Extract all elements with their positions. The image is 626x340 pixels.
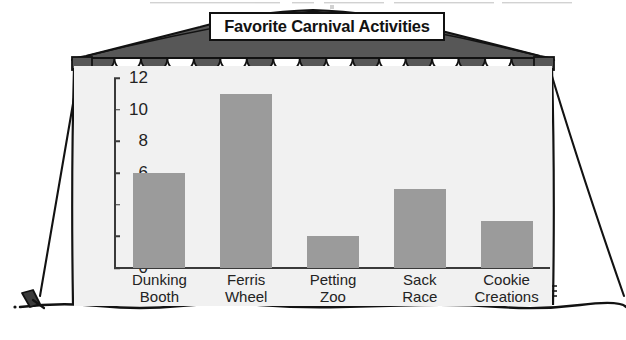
bar-cookie-creations — [481, 221, 533, 269]
x-label-petting-zoo: PettingZoo — [290, 271, 377, 305]
x-axis-category-labels: DunkingBoothFerrisWheelPettingZooSackRac… — [116, 271, 550, 305]
x-label-line: Ferris — [203, 271, 290, 288]
bar-sack-race — [394, 189, 446, 268]
chart-panel: 024681012 DunkingBoothFerrisWheelPetting… — [74, 66, 552, 306]
bar-series — [116, 78, 550, 268]
x-label-line: Sack — [376, 271, 463, 288]
bar-slot — [463, 78, 550, 268]
bar-dunking-booth — [133, 173, 185, 268]
plot-area: 024681012 DunkingBoothFerrisWheelPetting… — [74, 66, 552, 306]
chart-title-banner: Favorite Carnival Activities — [209, 12, 445, 41]
x-label-line: Booth — [116, 288, 203, 305]
bar-ferris-wheel — [220, 94, 272, 268]
bar-slot — [116, 78, 203, 268]
bar-slot — [203, 78, 290, 268]
tent-stake-icon — [13, 290, 44, 309]
page-top-cut-text — [150, 2, 572, 9]
bar-petting-zoo — [307, 236, 359, 268]
x-label-sack-race: SackRace — [376, 271, 463, 305]
guy-rope-right — [548, 63, 624, 296]
x-label-line: Creations — [463, 288, 550, 305]
x-label-line: Wheel — [203, 288, 290, 305]
bar-slot — [376, 78, 463, 268]
x-label-ferris-wheel: FerrisWheel — [203, 271, 290, 305]
x-label-line: Zoo — [290, 288, 377, 305]
x-label-cookie-creations: CookieCreations — [463, 271, 550, 305]
x-label-line: Petting — [290, 271, 377, 288]
x-label-dunking-booth: DunkingBooth — [116, 271, 203, 305]
x-label-line: Cookie — [463, 271, 550, 288]
x-label-line: Race — [376, 288, 463, 305]
bar-slot — [290, 78, 377, 268]
carnival-tent-bar-chart: Favorite Carnival Activities 024681012 D… — [0, 0, 626, 340]
page-title: Favorite Carnival Activities — [224, 17, 430, 36]
x-label-line: Dunking — [116, 271, 203, 288]
